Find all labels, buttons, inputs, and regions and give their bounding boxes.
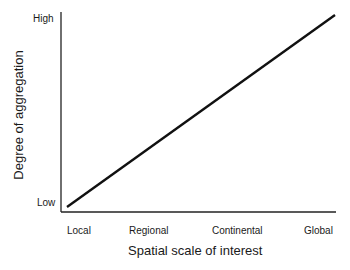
data-line	[67, 15, 335, 207]
plot-area	[0, 0, 350, 270]
x-tick-continental: Continental	[212, 225, 263, 236]
chart: High Low Degree of aggregation Local Reg…	[0, 0, 350, 270]
y-tick-high: High	[33, 13, 54, 24]
x-tick-local: Local	[67, 225, 91, 236]
x-tick-global: Global	[304, 225, 333, 236]
y-axis-title: Degree of aggregation	[11, 50, 26, 179]
y-tick-low: Low	[37, 197, 55, 208]
x-axis-title: Spatial scale of interest	[128, 243, 262, 258]
x-tick-regional: Regional	[129, 225, 168, 236]
